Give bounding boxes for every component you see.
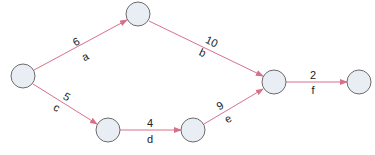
node-5 xyxy=(96,118,120,142)
edge-e-duration: 9 xyxy=(214,99,225,112)
node-4 xyxy=(347,70,371,94)
edges xyxy=(33,20,347,130)
edge-a-duration: 6 xyxy=(71,35,82,48)
edge-d-duration: 4 xyxy=(147,117,153,129)
edge-f-activity: f xyxy=(311,84,315,96)
edge-c xyxy=(33,84,97,124)
edge-e-activity: e xyxy=(222,112,233,125)
edge-d-activity: d xyxy=(147,133,153,145)
edge-f-duration: 2 xyxy=(310,69,316,81)
node-3 xyxy=(262,70,286,94)
network-diagram: 6 a 10 b 5 c 4 d 9 e 2 f xyxy=(0,0,375,155)
node-1 xyxy=(11,64,35,88)
edge-a-activity: a xyxy=(80,49,92,63)
edge-c-activity: c xyxy=(52,101,63,114)
edge-c-duration: 5 xyxy=(61,90,72,103)
node-6 xyxy=(181,118,205,142)
edge-e xyxy=(204,89,263,124)
edge-b-activity: b xyxy=(197,46,208,59)
node-2 xyxy=(126,2,150,26)
nodes xyxy=(11,2,371,142)
